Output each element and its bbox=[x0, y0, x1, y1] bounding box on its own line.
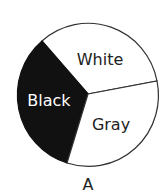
label-white: White bbox=[77, 50, 124, 69]
chart-caption: A bbox=[83, 175, 94, 194]
pie-chart: White Black Gray A bbox=[0, 0, 167, 196]
label-black: Black bbox=[27, 91, 71, 110]
label-gray: Gray bbox=[92, 115, 130, 134]
